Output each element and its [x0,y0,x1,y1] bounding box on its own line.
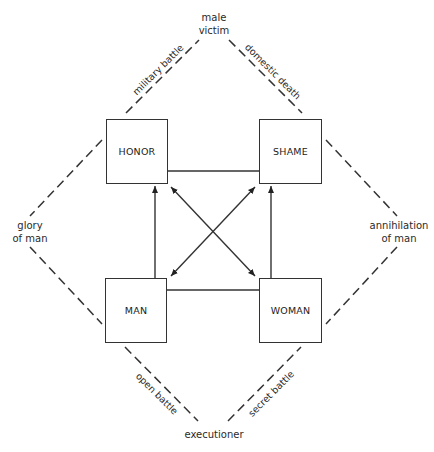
node-left-line-2: of man [6,232,54,245]
box-shame: SHAME [259,119,322,184]
box-label-shame: SHAME [273,146,308,157]
dashed-edge-right-upper [326,140,397,216]
dashed-edge-domestic-death [229,40,302,113]
node-right-line-1: annihilation [364,219,434,232]
dashed-edge-left-lower [30,247,102,324]
node-right-line-2: of man [364,232,434,245]
dashed-edge-open-battle [125,347,198,421]
node-top-line-2: victim [184,24,244,37]
dashed-edge-secret-battle [228,347,301,421]
dashed-edge-right-lower [326,247,397,324]
node-top-male-victim: male victim [184,11,244,37]
node-left-glory-of-man: glory of man [6,219,54,245]
dashed-edge-left-upper [30,140,102,216]
box-label-man: MAN [125,305,147,316]
node-left-line-1: glory [6,219,54,232]
dashed-edge-military-battle [126,40,199,113]
box-honor: HONOR [106,119,168,184]
node-right-annihilation-of-man: annihilation of man [364,219,434,245]
box-label-honor: HONOR [119,146,156,157]
node-top-line-1: male [184,11,244,24]
node-bottom-executioner: executioner [174,428,254,441]
box-man: MAN [105,278,167,343]
box-label-woman: WOMAN [271,305,311,316]
box-woman: WOMAN [259,278,322,343]
node-bottom-line-1: executioner [174,428,254,441]
